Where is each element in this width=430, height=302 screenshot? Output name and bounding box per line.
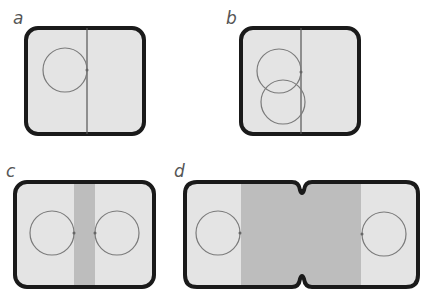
shaded-band	[241, 180, 361, 290]
panel-a: a	[13, 8, 144, 134]
panel-c: c	[6, 161, 154, 287]
panel-label-b: b	[226, 8, 237, 28]
panel-label-c: c	[6, 161, 16, 181]
diagram: a b c d	[0, 0, 430, 302]
panel-label-d: d	[174, 161, 185, 181]
panel-d: d	[174, 161, 418, 290]
panel-label-a: a	[13, 8, 23, 28]
shaded-band	[74, 184, 95, 285]
panel-b: b	[226, 8, 359, 134]
